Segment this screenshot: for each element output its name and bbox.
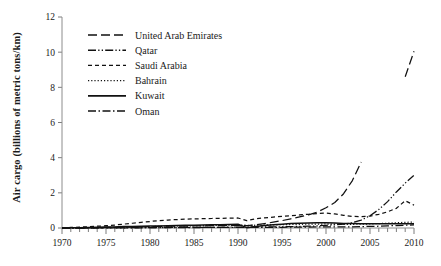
legend-label-bahrain[interactable]: Bahrain bbox=[135, 75, 167, 86]
y-tick-label: 0 bbox=[50, 223, 55, 233]
x-tick-label: 1985 bbox=[185, 238, 204, 248]
y-tick-label: 8 bbox=[50, 83, 55, 93]
x-tick-label: 2010 bbox=[405, 238, 424, 248]
x-tick-label: 1970 bbox=[53, 238, 72, 248]
x-tick-label: 2005 bbox=[361, 238, 380, 248]
legend-label-kuwait[interactable]: Kuwait bbox=[135, 90, 165, 101]
series-line-united-arab-emirates bbox=[405, 51, 414, 76]
x-axis-ticks: 197019751980198519901995200020052010 bbox=[53, 228, 424, 248]
chart-legend: United Arab EmiratesQatarSaudi ArabiaBah… bbox=[88, 30, 222, 117]
data-series-group bbox=[62, 51, 414, 228]
x-tick-label: 1990 bbox=[229, 238, 248, 248]
x-tick-label: 2000 bbox=[317, 238, 336, 248]
legend-label-qatar[interactable]: Qatar bbox=[135, 45, 158, 56]
x-tick-label: 1995 bbox=[273, 238, 292, 248]
y-tick-label: 2 bbox=[50, 188, 55, 198]
plot-area: 024681012 197019751980198519901995200020… bbox=[0, 0, 441, 266]
legend-label-saudi-arabia[interactable]: Saudi Arabia bbox=[135, 60, 187, 71]
legend-label-united-arab-emirates[interactable]: United Arab Emirates bbox=[135, 30, 222, 41]
y-tick-label: 10 bbox=[46, 48, 56, 58]
y-tick-label: 12 bbox=[46, 12, 56, 22]
y-tick-label: 4 bbox=[50, 153, 55, 163]
x-tick-label: 1980 bbox=[141, 238, 160, 248]
air-cargo-line-chart: Air cargo (billions of metric tons/km) 0… bbox=[0, 0, 441, 266]
x-tick-label: 1975 bbox=[97, 238, 116, 248]
y-axis-ticks: 024681012 bbox=[46, 12, 63, 233]
y-tick-label: 6 bbox=[50, 118, 55, 128]
series-line-qatar bbox=[62, 175, 414, 228]
legend-label-oman[interactable]: Oman bbox=[135, 106, 159, 117]
